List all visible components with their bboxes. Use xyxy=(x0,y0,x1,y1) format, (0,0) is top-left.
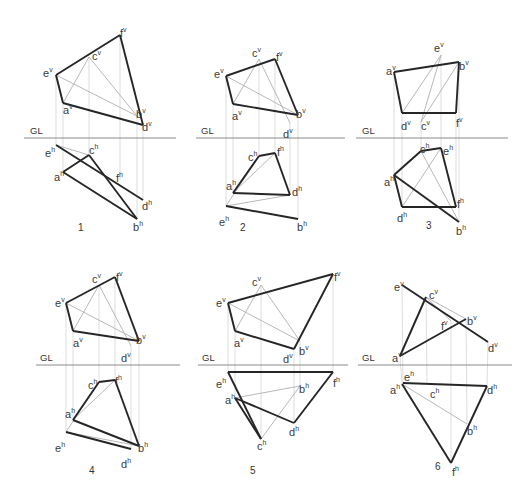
point-label-c-vertical: cv xyxy=(252,46,262,59)
visible-edge-ae xyxy=(226,76,233,104)
visible-edge-ae xyxy=(66,303,73,331)
panel-caption: 4 xyxy=(89,465,95,476)
visible-edge-fb xyxy=(115,380,139,446)
point-label-d-vertical: dv xyxy=(283,352,293,365)
point-label-e-horizontal: eh xyxy=(404,370,414,383)
point-label-e-horizontal: eh xyxy=(55,441,65,454)
point-label-f-horizontal: fh xyxy=(277,145,284,158)
point-label-d-horizontal: dh xyxy=(487,383,497,396)
visible-edge-eb xyxy=(226,206,298,219)
projector-e xyxy=(402,285,403,383)
visible-edge-ac xyxy=(233,156,259,193)
point-label-c-horizontal: ch xyxy=(420,142,430,155)
point-label-f-vertical: fv xyxy=(116,270,123,283)
point-label-b-vertical: bv xyxy=(299,344,309,357)
visible-edge-ce xyxy=(228,372,261,439)
visible-edge-ef xyxy=(66,277,115,303)
hidden-edge-ab xyxy=(235,386,300,398)
point-label-a-horizontal: ah xyxy=(54,170,64,183)
point-label-c-horizontal: ch xyxy=(88,378,98,391)
hidden-edge-fa xyxy=(233,153,275,193)
vertical-projection: avbvcvdvevfv xyxy=(43,26,152,133)
horizontal-projection: ahbhchdhehfh xyxy=(219,145,307,233)
visible-edge-cb xyxy=(89,155,137,219)
vertical-projection: avbvcvdvevfv xyxy=(392,280,498,364)
point-label-f-horizontal: fh xyxy=(457,197,464,210)
point-label-e-vertical: ev xyxy=(394,280,404,293)
visible-edge-ac xyxy=(400,297,426,356)
panel-5: GLavbvcvdvevfvahbhchdhehfh5 xyxy=(198,270,348,476)
point-label-b-vertical: bv xyxy=(136,333,146,346)
panel-caption: 2 xyxy=(240,222,246,233)
panel-caption: 6 xyxy=(435,461,441,472)
visible-edge-ed xyxy=(403,383,487,386)
point-label-b-horizontal: bh xyxy=(138,441,148,454)
horizontal-projection: ahbhchdhehfh xyxy=(216,372,340,452)
point-label-a-vertical: av xyxy=(63,103,73,116)
panel-1: GLavbvcvdvevfvahbhchdhehfh1 xyxy=(24,26,176,233)
point-label-d-horizontal: dh xyxy=(292,185,302,198)
horizontal-projection: ahbhchdhehfh xyxy=(390,370,497,478)
horizontal-projection: ahbhchdhehfh xyxy=(55,374,148,470)
hidden-edge-cb xyxy=(261,285,300,341)
visible-edge-ed xyxy=(56,145,143,200)
point-label-c-horizontal: ch xyxy=(257,439,267,452)
point-label-c-vertical: cv xyxy=(429,288,439,301)
ground-line-label: GL xyxy=(362,352,375,363)
ground-line-label: GL xyxy=(30,125,43,136)
point-label-f-vertical: fv xyxy=(334,270,341,283)
vertical-projection: avbvcvdvevfv xyxy=(214,46,306,140)
visible-edge-fd xyxy=(275,153,290,195)
point-label-d-vertical: dv xyxy=(488,341,498,354)
panel-caption: 5 xyxy=(250,465,256,476)
point-label-b-vertical: bv xyxy=(467,314,477,327)
point-label-a-horizontal: ah xyxy=(384,175,394,188)
point-label-d-vertical: dv xyxy=(401,119,411,132)
hidden-edge-ec xyxy=(56,145,89,155)
point-label-d-horizontal: dh xyxy=(397,211,407,224)
panel-caption: 1 xyxy=(78,222,84,233)
point-label-f-horizontal: fh xyxy=(116,171,123,184)
point-label-b-horizontal: bh xyxy=(456,224,466,237)
point-label-f-horizontal: fh xyxy=(333,376,340,389)
visible-edge-ac xyxy=(394,151,421,175)
point-label-e-vertical: ev xyxy=(434,41,444,54)
point-label-f-vertical: fv xyxy=(276,50,283,63)
panel-6: GLavbvcvdvevfvahbhchdhehfh6 xyxy=(358,280,512,478)
projector-lines xyxy=(66,277,139,449)
point-label-a-horizontal: ah xyxy=(225,393,235,406)
visible-edge-fb xyxy=(115,277,139,341)
ground-line-label: GL xyxy=(362,125,375,136)
point-label-c-vertical: cv xyxy=(92,49,102,62)
visible-edge-fa xyxy=(402,384,451,463)
ground-line-label: GL xyxy=(40,352,53,363)
hidden-edge-cb xyxy=(421,151,459,222)
visible-edge-ae xyxy=(228,303,235,331)
point-label-c-vertical: cv xyxy=(92,272,102,285)
hidden-edge-fa xyxy=(73,380,115,420)
visible-edge-ac xyxy=(73,382,99,420)
point-label-f-vertical: fv xyxy=(456,116,463,129)
point-label-f-horizontal: fh xyxy=(452,465,459,478)
point-label-b-vertical: bv xyxy=(459,59,469,72)
point-label-d-horizontal: dh xyxy=(142,199,152,212)
panel-2: GLavbvcvdvevfvahbhchdhehfh2 xyxy=(196,46,345,233)
visible-edge-da xyxy=(233,193,290,195)
point-label-b-horizontal: bh xyxy=(133,220,143,233)
hidden-edge-ca xyxy=(235,285,261,331)
panels-group: GLavbvcvdvevfvahbhchdhehfh1GLavbvcvdvevf… xyxy=(24,26,512,478)
point-label-c-horizontal: ch xyxy=(89,143,99,156)
hidden-edge-ed xyxy=(226,195,290,206)
projector-b xyxy=(466,319,467,424)
point-label-e-horizontal: eh xyxy=(216,377,226,390)
point-label-e-horizontal: eh xyxy=(45,146,55,159)
projector-a xyxy=(400,356,402,384)
visible-edge-ab xyxy=(400,319,466,356)
point-label-c-horizontal: ch xyxy=(430,387,440,400)
visible-edge-fb xyxy=(275,59,298,115)
point-label-f-vertical: fv xyxy=(120,26,127,39)
orthographic-projection-diagram: GLavbvcvdvevfvahbhchdhehfh1GLavbvcvdvevf… xyxy=(0,0,528,495)
visible-edge-ef xyxy=(228,274,333,303)
panel-caption: 3 xyxy=(426,220,432,231)
point-label-a-vertical: av xyxy=(73,336,83,349)
